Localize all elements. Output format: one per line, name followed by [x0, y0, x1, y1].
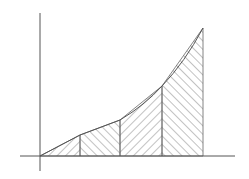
strip-2 — [80, 120, 120, 156]
strip-3 — [120, 86, 162, 156]
area-diagram — [0, 0, 249, 179]
hatched-strips — [40, 28, 203, 156]
strip-4 — [162, 28, 203, 156]
